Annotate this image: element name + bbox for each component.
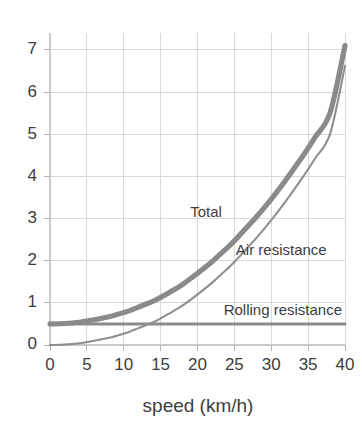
chart-container: 01234567 0510152025303540 TotalAir resis… (0, 0, 362, 444)
x-tick-label: 40 (336, 355, 355, 374)
x-tick-label: 25 (225, 355, 244, 374)
x-tick-label: 20 (188, 355, 207, 374)
y-tick-label: 4 (28, 166, 37, 185)
x-tick-label: 5 (82, 355, 91, 374)
y-tick-label: 0 (28, 334, 37, 353)
x-axis-title: speed (km/h) (143, 395, 254, 416)
x-tick-label: 15 (151, 355, 170, 374)
y-tick-label: 3 (28, 208, 37, 227)
y-tick-label: 6 (28, 82, 37, 101)
series-label-rolling-resistance: Rolling resistance (224, 301, 342, 318)
x-tick-label: 30 (262, 355, 281, 374)
x-tick-label: 10 (114, 355, 133, 374)
series-label-air-resistance: Air resistance (236, 241, 327, 258)
series-label-total: Total (190, 203, 222, 220)
y-tick-label: 1 (28, 292, 37, 311)
y-tick-label: 5 (28, 124, 37, 143)
y-tick-label: 7 (28, 39, 37, 58)
resistance-vs-speed-chart: 01234567 0510152025303540 TotalAir resis… (0, 0, 362, 444)
x-tick-label: 35 (299, 355, 318, 374)
y-tick-label: 2 (28, 250, 37, 269)
x-tick-label: 0 (45, 355, 54, 374)
